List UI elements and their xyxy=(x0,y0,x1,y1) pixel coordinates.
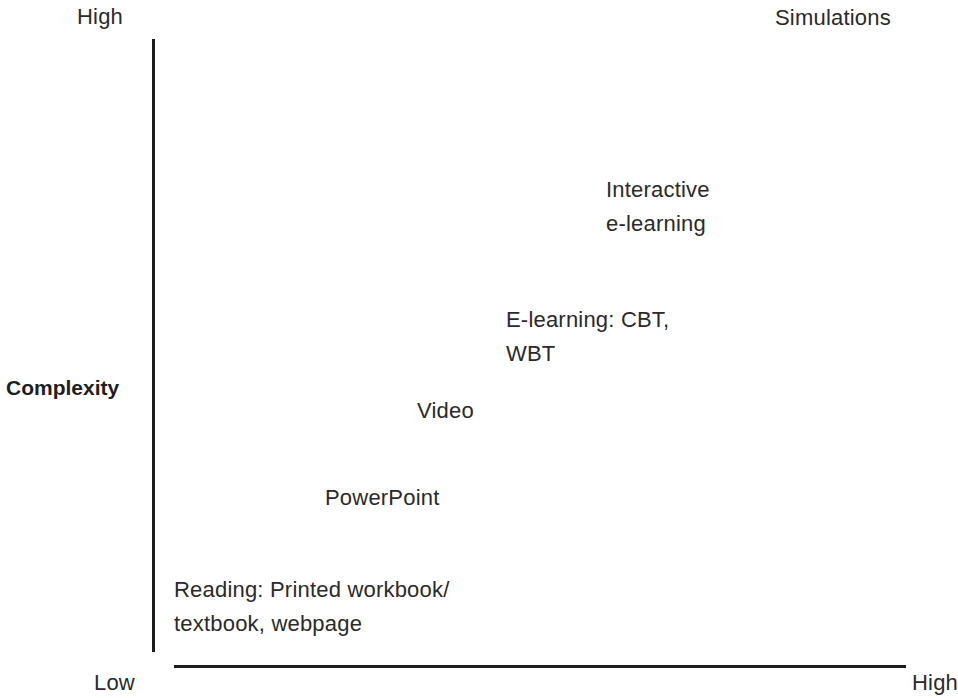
item-interactive-elearning-line-2: e-learning xyxy=(606,209,710,239)
y-axis-title: Complexity xyxy=(6,376,119,400)
item-reading-line-1: Reading: Printed workbook/ xyxy=(174,575,449,605)
x-axis-high-label: High xyxy=(912,668,958,698)
item-powerpoint-line-1: PowerPoint xyxy=(325,485,440,510)
item-interactive-elearning: Interactive e-learning xyxy=(606,175,710,239)
item-reading: Reading: Printed workbook/ textbook, web… xyxy=(174,575,449,639)
item-powerpoint: PowerPoint xyxy=(325,483,440,513)
y-axis-low-label: Low xyxy=(94,668,135,698)
item-reading-line-2: textbook, webpage xyxy=(174,609,449,639)
item-simulations-line-1: Simulations xyxy=(775,5,891,30)
item-video-line-1: Video xyxy=(417,398,474,423)
item-elearning-cbt-wbt-line-2: WBT xyxy=(506,339,669,369)
y-axis-line xyxy=(152,39,155,652)
item-simulations: Simulations xyxy=(775,3,891,33)
x-axis-line xyxy=(174,665,906,668)
item-elearning-cbt-wbt-line-1: E-learning: CBT, xyxy=(506,305,669,335)
y-axis-high-label: High xyxy=(77,2,123,32)
item-video: Video xyxy=(417,396,474,426)
item-elearning-cbt-wbt: E-learning: CBT, WBT xyxy=(506,305,669,369)
item-interactive-elearning-line-1: Interactive xyxy=(606,175,710,205)
